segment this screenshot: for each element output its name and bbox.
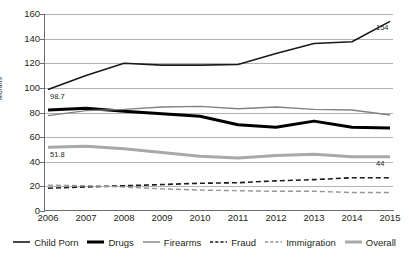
data-point-label: 154 [376,23,389,32]
legend-item-child-porn[interactable]: Child Porn [13,237,78,248]
x-tick-label: 2013 [303,212,324,223]
legend-swatch-icon [143,239,160,245]
legend-item-firearms[interactable]: Firearms [143,237,201,248]
x-tick-label: 2010 [189,212,210,223]
data-point-label: 98.7 [50,92,65,101]
legend-label: Firearms [164,237,201,248]
legend-label: Immigration [286,237,336,248]
legend-swatch-icon [13,239,30,245]
data-point-label: 44 [376,159,384,168]
series-line-overall [48,146,390,158]
y-tick-label: 140 [10,34,40,43]
x-tick-label: 2009 [151,212,172,223]
series-line-drugs [48,108,390,128]
legend-item-fraud[interactable]: Fraud [210,237,256,248]
y-tick-label: 100 [10,83,40,92]
legend-label: Drugs [108,237,133,248]
line-chart: Months 160140120100806040200 98.715451.8… [0,0,409,259]
legend-item-overall[interactable]: Overall [345,237,396,248]
x-tick-label: 2011 [228,212,248,223]
legend-swatch-icon [265,239,282,245]
legend-item-immigration[interactable]: Immigration [265,237,336,248]
series-line-child-porn [48,21,390,89]
y-tick-label: 120 [10,58,40,67]
legend-swatch-icon [345,239,362,245]
legend-swatch-icon [210,239,227,245]
y-tick-label: 20 [10,181,40,190]
legend-swatch-icon [87,239,104,245]
chart-legend: Child PornDrugsFirearmsFraudImmigrationO… [0,232,409,252]
x-tick-label: 2015 [379,212,400,223]
y-tick-label: 80 [10,108,40,117]
series-line-immigration [48,185,390,192]
legend-item-drugs[interactable]: Drugs [87,237,133,248]
x-tick-label: 2014 [341,212,362,223]
x-tick-label: 2006 [37,212,58,223]
y-axis-title: Months [0,77,3,100]
data-point-label: 51.8 [50,150,65,159]
y-tick-label: 160 [10,9,40,18]
y-tick-label: 40 [10,157,40,166]
legend-label: Overall [366,237,396,248]
x-axis-tick-labels: 2006200720082009201020112012201320142015 [44,212,394,228]
legend-label: Fraud [231,237,256,248]
x-tick-label: 2012 [265,212,286,223]
y-tick-label: 0 [10,206,40,215]
x-tick-label: 2007 [75,212,96,223]
legend-label: Child Porn [34,237,78,248]
y-tick-label: 60 [10,132,40,141]
series-line-firearms [48,106,390,115]
series-container [44,14,394,211]
x-tick-label: 2008 [113,212,134,223]
